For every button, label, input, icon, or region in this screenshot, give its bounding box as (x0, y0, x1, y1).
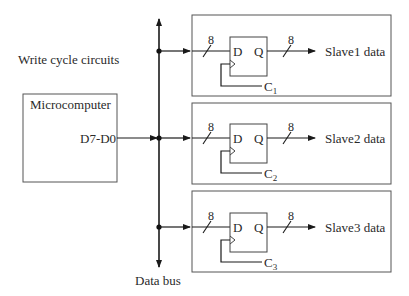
port-label: D7-D0 (80, 132, 116, 145)
q-pin-label: Q (254, 221, 263, 234)
clock-label-1: C1 (264, 80, 277, 93)
q-pin-label: Q (254, 132, 263, 145)
q-pin-label: Q (254, 45, 263, 58)
diagram-title: Write cycle circuits (18, 53, 119, 66)
slave-3-output-label: Slave3 data (325, 221, 385, 234)
microcomputer-label: Microcomputer (30, 98, 111, 111)
clock-label-2: C2 (264, 167, 277, 180)
clock-line-3 (221, 240, 262, 262)
clock-label-3: C3 (264, 256, 277, 269)
output-width-label: 8 (288, 121, 294, 133)
d-pin-label: D (233, 45, 242, 58)
d-pin-label: D (233, 132, 242, 145)
output-width-label: 8 (288, 34, 294, 46)
slave-1-output-label: Slave1 data (325, 45, 385, 58)
clock-line-2 (221, 151, 262, 173)
clock-line-1 (221, 64, 262, 86)
clock-triangle-icon (230, 236, 235, 244)
input-width-label: 8 (208, 34, 214, 46)
output-width-label: 8 (288, 210, 294, 222)
input-width-label: 8 (208, 121, 214, 133)
input-width-label: 8 (208, 210, 214, 222)
slave-2-output-label: Slave2 data (325, 132, 385, 145)
clock-triangle-icon (230, 60, 235, 68)
data-bus-label: Data bus (135, 274, 181, 287)
d-pin-label: D (233, 221, 242, 234)
clock-triangle-icon (230, 147, 235, 155)
